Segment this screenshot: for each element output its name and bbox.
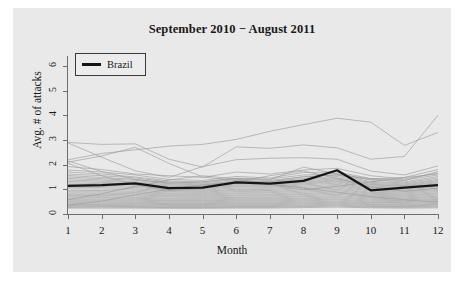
x-tick-mark <box>270 214 271 219</box>
x-tick-label: 3 <box>122 224 148 236</box>
chart-panel: September 2010 − August 2011 Avg. # of a… <box>13 8 451 272</box>
y-tick-label: 6 <box>47 53 58 75</box>
x-tick-mark <box>203 214 204 219</box>
x-tick-label: 6 <box>223 224 249 236</box>
series-lines <box>68 56 438 214</box>
x-tick-mark <box>102 214 103 219</box>
x-tick-mark <box>371 214 372 219</box>
x-tick-mark <box>135 214 136 219</box>
x-tick-mark <box>68 214 69 219</box>
y-tick-label: 0 <box>47 202 58 224</box>
x-tick-mark <box>169 214 170 219</box>
x-tick-label: 1 <box>55 224 81 236</box>
chart-screenshot: September 2010 − August 2011 Avg. # of a… <box>0 0 467 283</box>
x-tick-mark <box>236 214 237 219</box>
y-tick-label: 5 <box>47 78 58 100</box>
y-tick-label: 1 <box>47 177 58 199</box>
x-tick-mark <box>438 214 439 219</box>
x-tick-mark <box>404 214 405 219</box>
series-line <box>68 118 438 159</box>
x-tick-label: 7 <box>257 224 283 236</box>
x-tick-label: 11 <box>391 224 417 236</box>
x-tick-label: 2 <box>89 224 115 236</box>
y-tick-label: 2 <box>47 152 58 174</box>
x-tick-label: 10 <box>358 224 384 236</box>
y-tick-label: 3 <box>47 127 58 149</box>
x-tick-mark <box>303 214 304 219</box>
x-tick-label: 9 <box>324 224 350 236</box>
x-tick-mark <box>337 214 338 219</box>
x-axis-line <box>68 214 438 215</box>
legend[interactable]: Brazil <box>75 53 146 76</box>
y-tick-label: 4 <box>47 103 58 125</box>
x-tick-label: 12 <box>425 224 451 236</box>
y-axis-label: Avg. # of attacks <box>31 50 43 170</box>
page-title: September 2010 − August 2011 <box>13 22 451 37</box>
legend-item-label: Brazil <box>107 59 133 70</box>
x-tick-label: 8 <box>290 224 316 236</box>
x-tick-label: 4 <box>156 224 182 236</box>
x-axis-label: Month <box>13 244 451 256</box>
x-tick-label: 5 <box>190 224 216 236</box>
plot-area <box>68 56 438 214</box>
legend-line-swatch <box>82 63 101 65</box>
